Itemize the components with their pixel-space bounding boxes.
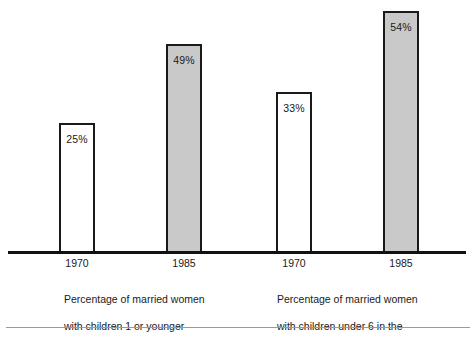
x-tick-label-1970-b: 1970 bbox=[259, 258, 329, 270]
x-tick-label-1970-a: 1970 bbox=[42, 258, 112, 270]
bar-chart-figure: 25% 49% 33% 54% 1970 1985 1970 1985 Perc… bbox=[0, 0, 476, 340]
x-axis-line bbox=[8, 251, 466, 254]
bar-group-a-1985: 49% bbox=[166, 44, 202, 253]
plot-area: 25% 49% 33% 54% bbox=[0, 0, 476, 256]
bar-value-label: 33% bbox=[278, 103, 310, 114]
bar-value-label: 49% bbox=[168, 55, 200, 66]
bottom-divider bbox=[6, 327, 470, 328]
bar-group-b-1985: 54% bbox=[383, 11, 419, 253]
group-caption-right: Percentage of married women with childre… bbox=[277, 280, 476, 340]
bar-group-b-1970: 33% bbox=[276, 92, 312, 253]
bar-group-a-1970: 25% bbox=[59, 123, 95, 253]
caption-line-1: Percentage of married women bbox=[277, 293, 476, 306]
x-tick-label-1985-b: 1985 bbox=[366, 258, 436, 270]
bar-value-label: 54% bbox=[385, 22, 417, 33]
x-tick-label-1985-a: 1985 bbox=[149, 258, 219, 270]
bar-value-label: 25% bbox=[61, 134, 93, 145]
group-caption-left: Percentage of married women with childre… bbox=[64, 280, 264, 340]
caption-line-1: Percentage of married women bbox=[64, 293, 264, 306]
